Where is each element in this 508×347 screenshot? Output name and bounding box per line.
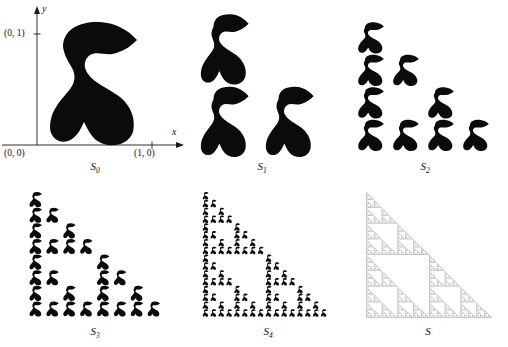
gasket-cell [374,268,375,269]
gasket-cell [366,215,367,216]
gasket-cell [462,296,463,297]
gasket-cell [402,293,403,294]
blob-cell [201,87,249,157]
gasket-cell [445,275,446,276]
gasket-cell [429,276,430,277]
gasket-cell [437,280,438,281]
gasket-cell [383,282,384,283]
gasket-cell [468,312,469,313]
gasket-cell [369,226,370,227]
gasket-cell [367,297,368,298]
blob-cell [266,87,314,157]
gasket-cell [446,284,447,285]
gasket-cell [476,303,477,304]
gasket-cell [371,260,372,261]
gasket-cell [453,311,454,312]
gasket-cell [398,234,399,235]
gasket-cell [461,313,462,314]
gasket-cell [408,238,409,239]
gasket-cell [394,286,395,287]
gasket-cell [417,308,418,309]
gasket-cell [461,307,462,308]
gasket-cell [376,253,377,254]
gasket-cell [405,315,406,316]
gasket-cell [376,249,377,250]
gasket-cell [429,268,430,269]
gasket-cell [480,315,481,316]
gasket-cell [366,284,367,285]
gasket-cell [390,217,391,218]
gasket-cell [395,221,396,222]
gasket-cell [367,219,368,220]
gasket-cell [429,301,430,302]
gasket-cell [373,246,374,247]
gasket-cell [433,275,434,276]
gasket-cell [383,217,384,218]
gasket-cell [368,293,369,294]
gasket-cell [371,270,372,271]
panel-s3-graphic [28,192,163,317]
gasket-cell [392,317,393,318]
gasket-cell [449,278,450,279]
gasket-cell [375,248,376,249]
gasket-cell [477,309,478,310]
gasket-cell [429,313,430,314]
gasket-cell [387,286,388,287]
gasket-cell [390,220,391,221]
gasket-cell [393,286,394,287]
gasket-cell [377,234,378,235]
gasket-cell [368,237,369,238]
gasket-cell [386,307,387,308]
gasket-cell [374,284,375,285]
gasket-cell [437,266,438,267]
gasket-cell [385,215,386,216]
blob-copy [203,223,209,231]
gasket-cell [439,312,440,313]
gasket-cell [417,245,418,246]
gasket-cell [366,200,367,201]
gasket-cell [410,238,411,239]
gasket-cell [473,315,474,316]
gasket-cell [370,317,371,318]
gasket-cell [417,254,418,255]
blob-cell [358,22,384,53]
gasket-cell [478,312,479,313]
gasket-cell [458,284,459,285]
gasket-cell [433,260,434,261]
gasket-cell [461,293,462,294]
gasket-cell [430,299,431,300]
gasket-cell [382,309,383,310]
gasket-cell [433,299,434,300]
gasket-cell [388,308,389,309]
gasket-cell [433,270,434,271]
blob-cell [46,239,58,254]
gasket-cell [463,305,464,306]
gasket-cell [398,310,399,311]
gasket-cell [375,282,376,283]
blob-cell [234,231,240,239]
caption-s3-index: 3 [96,331,100,340]
blob-cell [281,270,287,278]
gasket-cell [463,293,464,294]
gasket-cell [398,252,399,253]
gasket-cell [416,309,417,310]
gasket-cell [382,209,383,210]
gasket-cell [424,313,425,314]
gasket-cell [382,275,383,276]
gasket-cell [438,264,439,265]
gasket-cell [471,297,472,298]
gasket-cell [462,293,463,294]
gasket-cell [401,301,402,302]
blob-cell [234,247,240,255]
gasket-cell [436,286,437,287]
blob-cell [218,270,224,278]
gasket-cell [372,316,373,317]
gasket-cell [413,309,414,310]
gasket-cell [399,249,400,250]
blob-cell [266,309,272,317]
gasket-cell [368,254,369,255]
gasket-cell [435,286,436,287]
gasket-cell [450,284,451,285]
gasket-cell [407,234,408,235]
gasket-cell [487,317,488,318]
